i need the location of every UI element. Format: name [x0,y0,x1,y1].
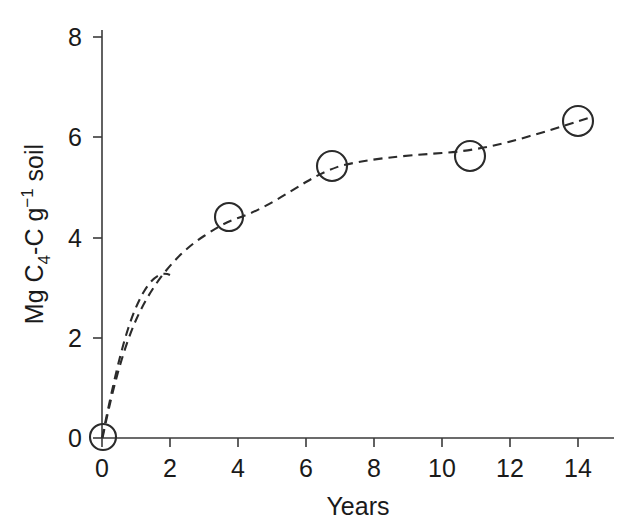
x-tick-label-6: 6 [299,454,313,482]
x-tick-label-0: 0 [95,454,109,482]
y-axis-title-prefix: Mg C [20,264,48,324]
x-tick-label-4: 4 [231,454,245,482]
data-point-2 [317,151,347,181]
x-tick-label-12: 12 [496,454,524,482]
y-tick-marks [93,37,102,438]
y-axis-title-superscript: −1 [18,188,37,207]
y-axis-title: Mg C4-C g−1 soil [18,144,54,324]
scatter-plot: 0 2 4 6 8 0 2 4 6 8 10 12 14 [0,0,640,529]
y-tick-labels: 0 2 4 6 8 [68,23,82,452]
x-tick-label-14: 14 [564,454,592,482]
x-tick-label-8: 8 [367,454,381,482]
y-axis-title-mid: -C g [20,208,48,255]
y-tick-label-4: 4 [68,224,82,252]
x-tick-marks [102,438,578,447]
data-point-3 [455,141,485,171]
data-points [90,106,593,450]
y-tick-label-8: 8 [68,23,82,51]
chart-figure: 0 2 4 6 8 0 2 4 6 8 10 12 14 [0,0,640,529]
x-axis-title: Years [326,492,389,520]
x-tick-label-2: 2 [163,454,177,482]
x-tick-label-10: 10 [428,454,456,482]
fitted-curve [102,274,170,438]
svg-text:Mg C4-C g−1 soil: Mg C4-C g−1 soil [18,144,54,324]
x-tick-labels: 0 2 4 6 8 10 12 14 [95,454,592,482]
y-axis-title-suffix: soil [20,144,48,188]
y-tick-label-0: 0 [68,424,82,452]
y-tick-label-6: 6 [68,123,82,151]
data-point-4 [563,106,593,136]
y-tick-label-2: 2 [68,324,82,352]
y-axis-title-subscript: 4 [35,255,54,264]
